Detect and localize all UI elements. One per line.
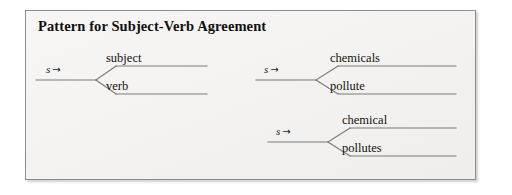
right-arrow-icon: → xyxy=(50,64,60,75)
right-arrow-icon: → xyxy=(268,64,278,75)
branch-up-line xyxy=(328,128,350,142)
branch-label-top: chemical xyxy=(342,113,387,128)
figure-title: Pattern for Subject-Verb Agreement xyxy=(38,18,266,35)
source-label-s-arrow: s→ xyxy=(276,125,291,137)
branch-label-top: subject xyxy=(106,51,141,66)
figure-panel: Pattern for Subject-Verb Agreement s→ su… xyxy=(25,10,476,180)
fork-diagram-singular-example: s→ chemical pollutes xyxy=(266,111,478,173)
source-label-s-arrow: s→ xyxy=(264,63,279,75)
branch-label-bottom: verb xyxy=(106,79,128,94)
branch-up-line xyxy=(316,66,338,80)
branch-label-bottom: pollutes xyxy=(342,141,382,156)
branch-label-top: chemicals xyxy=(330,51,380,66)
right-arrow-icon: → xyxy=(280,126,290,137)
fork-diagram-plural-example: s→ chemicals pollute xyxy=(254,49,466,111)
branch-label-bottom: pollute xyxy=(330,79,365,94)
source-label-s-arrow: s→ xyxy=(46,63,61,75)
branch-up-line xyxy=(96,66,116,80)
fork-diagram-subject-verb: s→ subject verb xyxy=(34,49,220,111)
